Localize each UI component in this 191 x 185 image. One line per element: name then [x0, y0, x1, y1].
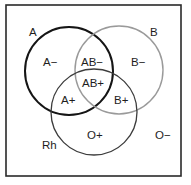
region-o-negative-label: O−: [155, 129, 171, 141]
set-rh-label: Rh: [42, 139, 57, 151]
region-ab-negative-label: AB−: [81, 56, 103, 68]
region-ab-positive-label: AB+: [82, 77, 104, 89]
blood-type-venn-diagram: A B Rh A− AB− B− AB+ A+ B+ O+ O−: [0, 0, 191, 185]
set-b-label: B: [150, 26, 158, 38]
region-a-negative-label: A−: [43, 56, 58, 68]
region-b-positive-label: B+: [114, 94, 129, 106]
region-o-positive-label: O+: [87, 129, 103, 141]
region-a-positive-label: A+: [61, 94, 76, 106]
region-b-negative-label: B−: [131, 56, 146, 68]
set-a-label: A: [29, 26, 37, 38]
